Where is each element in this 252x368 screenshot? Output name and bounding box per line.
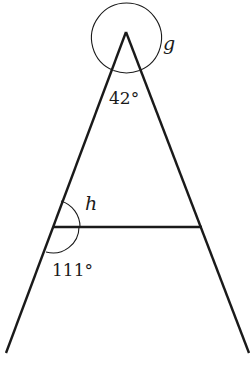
reflex-angle-arc-g xyxy=(92,3,162,70)
right-line xyxy=(126,32,249,353)
label-g: g xyxy=(163,32,175,54)
left-line xyxy=(6,32,126,353)
angle-h-arc xyxy=(61,201,80,227)
apex-angle-arc xyxy=(114,71,140,73)
geometry-diagram: g 42° h 111° xyxy=(0,0,252,368)
label-42: 42° xyxy=(109,88,139,108)
label-111: 111° xyxy=(52,260,93,280)
label-h: h xyxy=(85,192,97,214)
